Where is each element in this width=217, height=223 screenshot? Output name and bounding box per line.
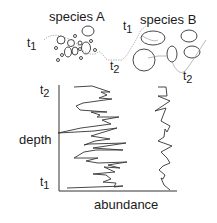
x-axis-label: abundance <box>94 198 158 211</box>
species-a-t1-label: t1 <box>27 37 36 49</box>
species-b-t2-label: t2 <box>183 70 192 82</box>
axis-lines <box>59 85 177 191</box>
species-a-individuals <box>55 26 97 62</box>
species-b-title: species B <box>140 13 196 26</box>
species-b-t1-label: t1 <box>123 20 132 32</box>
species-b-abundance-trace <box>155 87 172 190</box>
diagram-graphics <box>0 0 217 223</box>
species-a-title: species A <box>49 10 105 23</box>
species-a-abundance-trace <box>58 86 127 188</box>
axis-t1-label: t1 <box>40 176 49 188</box>
species-a-t2-label: t2 <box>110 60 119 72</box>
axis-t2-label: t2 <box>40 84 49 96</box>
species-b-trajectory <box>142 36 206 72</box>
y-axis-label: depth <box>19 133 52 146</box>
